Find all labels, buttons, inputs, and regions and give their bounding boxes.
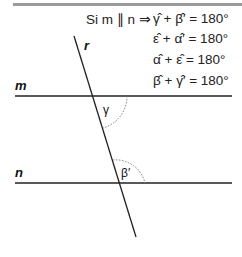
premise-text: Si m ∥ n ⇒ <box>86 11 151 27</box>
equation-4: β̂ + γ̂′ = 180° <box>153 73 229 88</box>
equation-3: α̂ + ε̂ = 180° <box>153 52 226 67</box>
label-r: r <box>84 38 89 53</box>
label-m: m <box>15 78 27 93</box>
equation-1: γ̂ + β̂′ = 180° <box>153 11 229 26</box>
top-bar <box>13 3 242 6</box>
equation-2: ε̂ + α̂′ = 180° <box>153 31 228 46</box>
label-n: n <box>15 165 23 180</box>
angle-gamma: γ <box>103 103 109 117</box>
line-r <box>74 36 136 237</box>
angle-beta-prime: β′ <box>121 166 130 180</box>
